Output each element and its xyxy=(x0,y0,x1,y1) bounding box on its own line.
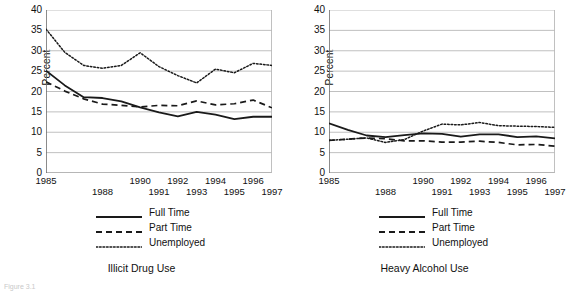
x-tick-label: 1996 xyxy=(243,175,264,186)
y-tick-label: 5 xyxy=(299,148,325,158)
figure: Percent 0510152025303540 198519881990199… xyxy=(0,0,567,293)
series-line-part-time xyxy=(329,138,555,146)
legend-label: Full Time xyxy=(432,207,473,218)
legend-label: Part Time xyxy=(432,222,475,233)
y-tick-label: 25 xyxy=(299,66,325,76)
x-tick-label: 1997 xyxy=(544,186,565,197)
legend-item-unemployed: Unemployed xyxy=(96,235,276,250)
y-tick-label: 20 xyxy=(299,87,325,97)
legend-key-part-time-icon xyxy=(379,223,425,233)
chart-panel-illicit-drug-use: Percent 0510152025303540 198519881990199… xyxy=(0,0,283,293)
y-tick-label: 10 xyxy=(16,127,42,137)
x-tick-label: 1992 xyxy=(450,175,471,186)
y-tick-label: 35 xyxy=(299,25,325,35)
x-tick-label: 1994 xyxy=(205,175,226,186)
legend-label: Unemployed xyxy=(149,237,205,248)
x-tick-label: 1985 xyxy=(35,175,56,186)
legend-item-full-time: Full Time xyxy=(379,205,559,220)
x-tick-label: 1991 xyxy=(148,186,169,197)
chart-title-right: Heavy Alcohol Use xyxy=(283,262,566,274)
x-tick-label: 1988 xyxy=(375,186,396,197)
y-tick-label: 5 xyxy=(16,148,42,158)
legend-item-unemployed: Unemployed xyxy=(379,235,559,250)
x-tick-label: 1990 xyxy=(130,175,151,186)
series-line-unemployed xyxy=(46,29,272,83)
legend-right: Full TimePart TimeUnemployed xyxy=(379,205,559,250)
x-tick-label: 1993 xyxy=(469,186,490,197)
x-tick-label: 1997 xyxy=(261,186,282,197)
y-tick-label: 40 xyxy=(16,5,42,15)
legend-key-unemployed-icon xyxy=(96,238,142,248)
y-tick-label: 20 xyxy=(16,87,42,97)
y-tick-label: 15 xyxy=(16,107,42,117)
chart-panel-heavy-alcohol-use: Percent 0510152025303540 198519881990199… xyxy=(283,0,566,293)
x-tick-label: 1995 xyxy=(507,186,528,197)
x-tick-label: 1991 xyxy=(431,186,452,197)
plot-area-right xyxy=(329,10,555,173)
x-tick-label: 1996 xyxy=(526,175,547,186)
y-tick-label: 25 xyxy=(16,66,42,76)
plot-svg-right xyxy=(329,10,555,173)
legend-left: Full TimePart TimeUnemployed xyxy=(96,205,276,250)
x-tick-label: 1995 xyxy=(224,186,245,197)
chart-title-left: Illicit Drug Use xyxy=(0,262,283,274)
plot-area-left xyxy=(46,10,272,173)
legend-label: Unemployed xyxy=(432,237,488,248)
plot-svg-left xyxy=(46,10,272,173)
legend-item-full-time: Full Time xyxy=(96,205,276,220)
legend-key-full-time-icon xyxy=(96,208,142,218)
figure-caption: Figure 3.1 xyxy=(4,283,244,292)
y-tick-label: 30 xyxy=(299,46,325,56)
legend-item-part-time: Part Time xyxy=(96,220,276,235)
legend-key-part-time-icon xyxy=(96,223,142,233)
y-tick-label: 15 xyxy=(299,107,325,117)
x-tick-label: 1992 xyxy=(167,175,188,186)
x-tick-label: 1990 xyxy=(413,175,434,186)
x-tick-label: 1988 xyxy=(92,186,113,197)
x-tick-label: 1993 xyxy=(186,186,207,197)
y-axis-ticks-right: 0510152025303540 xyxy=(295,10,325,173)
legend-item-part-time: Part Time xyxy=(379,220,559,235)
legend-key-full-time-icon xyxy=(379,208,425,218)
x-axis-ticks-right: 1985198819901991199219931994199519961997 xyxy=(329,175,555,199)
legend-label: Full Time xyxy=(149,207,190,218)
legend-key-unemployed-icon xyxy=(379,238,425,248)
y-tick-label: 40 xyxy=(299,5,325,15)
y-tick-label: 30 xyxy=(16,46,42,56)
x-axis-ticks-left: 1985198819901991199219931994199519961997 xyxy=(46,175,272,199)
y-tick-label: 10 xyxy=(299,127,325,137)
y-axis-ticks-left: 0510152025303540 xyxy=(12,10,42,173)
y-tick-label: 35 xyxy=(16,25,42,35)
legend-label: Part Time xyxy=(149,222,192,233)
x-tick-label: 1994 xyxy=(488,175,509,186)
x-tick-label: 1985 xyxy=(318,175,339,186)
